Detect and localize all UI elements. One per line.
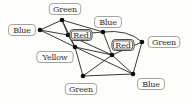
node-green-bottom — [81, 74, 86, 79]
node-blue-left — [38, 28, 43, 33]
edge-yellow--red-right — [75, 47, 112, 55]
node-blue-top — [101, 30, 106, 35]
node-label-yellow: Yellow — [37, 52, 73, 63]
node-label-red-left: Red — [70, 30, 92, 41]
node-blue-bottom — [131, 72, 136, 77]
node-yellow — [73, 45, 78, 50]
label-text: Yellow — [42, 53, 68, 62]
edge-red-right--blue-bottom — [112, 55, 133, 74]
node-label-blue-left: Blue — [9, 25, 36, 36]
node-label-blue-bottom: Blue — [138, 79, 165, 90]
node-label-red-right: Red — [112, 40, 134, 51]
label-text: Green — [53, 5, 77, 14]
label-text: Green — [152, 38, 176, 47]
node-label-green-top: Green — [49, 4, 81, 15]
edge-blue-left--green-top — [40, 20, 62, 30]
node-green-right — [140, 40, 145, 45]
label-text: Red — [115, 41, 130, 50]
label-text: Blue — [99, 18, 117, 27]
edge-red-right--green-bottom — [83, 55, 112, 76]
label-text: Green — [69, 85, 93, 94]
edge-green-bottom--blue-bottom — [83, 74, 133, 76]
graph-coloring-diagram: BlueGreenRedYellowBlueRedGreenBlueGreen — [0, 0, 189, 102]
node-label-green-right: Green — [148, 37, 180, 48]
edge-yellow--green-bottom — [75, 47, 83, 76]
label-text: Blue — [13, 26, 31, 35]
node-label-green-bottom: Green — [65, 84, 97, 95]
label-text: Red — [73, 31, 88, 40]
label-text: Blue — [142, 80, 160, 89]
node-label-blue-top: Blue — [95, 17, 122, 28]
graph-svg: BlueGreenRedYellowBlueRedGreenBlueGreen — [0, 0, 189, 102]
node-red-right — [110, 53, 115, 58]
node-green-top — [60, 18, 65, 23]
